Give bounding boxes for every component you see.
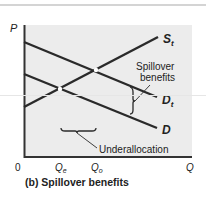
origin-label: 0	[15, 162, 21, 173]
y-axis-label: P	[10, 22, 18, 34]
underallocation-label: Underallocation	[99, 144, 169, 155]
x-axis-label: Q	[186, 162, 194, 173]
spillover-label-line1: Spillover	[136, 61, 175, 72]
equilibrium-point-qo	[94, 68, 98, 72]
x-tick-qo: Qo	[91, 162, 103, 174]
spillover-label-line2: benefits	[140, 72, 175, 83]
equilibrium-point-qe	[58, 87, 62, 91]
x-tick-qe: Qe	[55, 162, 67, 174]
figure-caption: (b) Spillover benefits	[25, 176, 129, 188]
spillover-benefits-diagram: St Dt D Spillover benefits Underallocati…	[0, 0, 206, 203]
scan-artifact-line	[0, 95, 206, 96]
demand-label: D	[162, 123, 171, 137]
